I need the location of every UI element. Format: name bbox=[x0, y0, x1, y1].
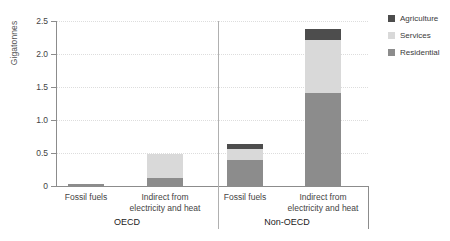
x-group-label: OECD bbox=[67, 217, 187, 228]
y-tick-mark bbox=[51, 21, 56, 22]
legend-item[interactable]: Residential bbox=[388, 44, 440, 61]
legend-swatch-icon bbox=[388, 15, 395, 22]
bar[interactable] bbox=[227, 144, 263, 186]
bar[interactable] bbox=[305, 29, 341, 186]
y-tick-label: 1.0 bbox=[36, 115, 48, 125]
y-tick-mark bbox=[51, 153, 56, 154]
chart-legend: AgricultureServicesResidential bbox=[388, 10, 440, 61]
x-label-line: Indirect from bbox=[273, 192, 373, 203]
bar-segment-residential[interactable] bbox=[305, 93, 341, 186]
bar-segment-services[interactable] bbox=[147, 154, 183, 178]
y-tick-label: 1.5 bbox=[36, 82, 48, 92]
bar-segment-residential[interactable] bbox=[147, 178, 183, 186]
x-label-line: electricity and heat bbox=[115, 203, 215, 214]
y-tick-mark bbox=[51, 120, 56, 121]
legend-label: Services bbox=[400, 31, 431, 40]
y-tick-mark bbox=[51, 54, 56, 55]
bar[interactable] bbox=[147, 154, 183, 186]
x-label-line: electricity and heat bbox=[273, 203, 373, 214]
bar-segment-residential[interactable] bbox=[227, 160, 263, 186]
bar-segment-residential[interactable] bbox=[68, 184, 104, 186]
y-tick-label: 2.0 bbox=[36, 49, 48, 59]
x-axis-line bbox=[56, 186, 368, 187]
bar[interactable] bbox=[68, 184, 104, 186]
legend-item[interactable]: Services bbox=[388, 27, 440, 44]
legend-label: Agriculture bbox=[400, 14, 438, 23]
y-tick-mark bbox=[51, 87, 56, 88]
x-category-label: Indirect fromelectricity and heat bbox=[273, 192, 373, 214]
bar-segment-agriculture[interactable] bbox=[305, 29, 341, 40]
gridline bbox=[57, 21, 368, 22]
bar-segment-services[interactable] bbox=[305, 40, 341, 93]
bar-segment-services[interactable] bbox=[227, 149, 263, 160]
y-axis-title: Gigatonnes bbox=[9, 3, 19, 83]
legend-swatch-icon bbox=[388, 49, 395, 56]
y-tick-label: 0 bbox=[43, 181, 48, 191]
legend-swatch-icon bbox=[388, 32, 395, 39]
y-tick-label: 0.5 bbox=[36, 148, 48, 158]
legend-item[interactable]: Agriculture bbox=[388, 10, 440, 27]
legend-label: Residential bbox=[400, 48, 440, 57]
chart-container: Gigatonnes 00.51.01.52.02.5 Fossil fuels… bbox=[0, 0, 450, 241]
plot-area bbox=[57, 21, 368, 186]
y-tick-mark bbox=[51, 186, 56, 187]
y-tick-label: 2.5 bbox=[36, 16, 48, 26]
x-group-label: Non-OECD bbox=[227, 217, 347, 228]
